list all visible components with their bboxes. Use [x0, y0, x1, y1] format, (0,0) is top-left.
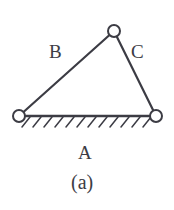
joint-top-circle: [108, 25, 120, 37]
hatch-mark: [66, 117, 74, 127]
member-b-label: B: [49, 42, 62, 61]
member-b-line: [19, 31, 114, 116]
ground-hatching: [22, 117, 151, 127]
hatch-mark: [77, 117, 85, 127]
member-c-label: C: [131, 42, 144, 61]
hatch-mark: [55, 117, 63, 127]
hatch-mark: [99, 117, 107, 127]
joint-left-circle: [13, 110, 25, 122]
hatch-mark: [110, 117, 118, 127]
hatch-mark: [132, 117, 140, 127]
hatch-mark: [88, 117, 96, 127]
truss-figure: B C A (a): [0, 0, 174, 210]
hatch-mark: [44, 117, 52, 127]
figure-caption: (a): [71, 172, 93, 192]
hatch-mark: [121, 117, 129, 127]
hatch-mark: [33, 117, 41, 127]
joint-right-circle: [150, 110, 162, 122]
member-a-label: A: [78, 143, 92, 162]
